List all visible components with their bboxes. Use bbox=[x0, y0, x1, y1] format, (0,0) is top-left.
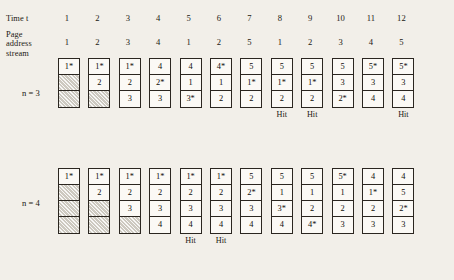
frame-stack-n-3-t1: 1* bbox=[58, 58, 80, 108]
page-request-7: 5 bbox=[239, 37, 259, 48]
frame-cell-n-4-t10-f3: 2 bbox=[333, 201, 353, 217]
frame-cell-n-3-t4-f1: 4 bbox=[150, 59, 170, 75]
frame-cell-n-3-t10-f2: 3 bbox=[333, 75, 353, 91]
time-value-12: 12 bbox=[391, 13, 411, 24]
frame-cell-n-4-t8-f1: 5 bbox=[272, 169, 292, 185]
frame-cell-n-4-t7-f1: 5 bbox=[241, 169, 261, 185]
frame-cell-n-3-t10-f1: 5 bbox=[333, 59, 353, 75]
frame-cell-n-3-t4-f2: 2* bbox=[150, 75, 170, 91]
time-value-2: 2 bbox=[87, 13, 107, 24]
frame-stack-n-4-t11: 41*23 bbox=[362, 168, 384, 234]
frame-cell-empty-n-4-t1-f2 bbox=[59, 185, 79, 201]
frame-cell-empty-n-3-t1-f3 bbox=[59, 91, 79, 107]
frame-cell-empty-n-4-t2-f4 bbox=[89, 217, 109, 233]
frame-cell-n-4-t10-f2: 1 bbox=[333, 185, 353, 201]
frame-cell-n-4-t9-f1: 5 bbox=[302, 169, 322, 185]
frame-cell-n-4-t8-f4: 4 bbox=[272, 217, 292, 233]
page-address-stream-label-line-2: address bbox=[6, 39, 32, 48]
frame-cell-n-4-t3-f3: 3 bbox=[120, 201, 140, 217]
hit-label-n-4-t5: Hit bbox=[178, 236, 204, 246]
frame-cell-n-4-t12-f2: 5 bbox=[393, 185, 413, 201]
frame-cell-n-3-t9-f2: 1* bbox=[302, 75, 322, 91]
frame-stack-n-4-t3: 1*23 bbox=[119, 168, 141, 234]
page-request-9: 2 bbox=[300, 37, 320, 48]
time-value-6: 6 bbox=[209, 13, 229, 24]
frame-stack-n-3-t5: 413* bbox=[180, 58, 202, 108]
frame-cell-n-4-t9-f4: 4* bbox=[302, 217, 322, 233]
frame-cell-n-4-t9-f2: 1 bbox=[302, 185, 322, 201]
frame-stack-n-3-t11: 5*34 bbox=[362, 58, 384, 108]
frame-cell-empty-n-3-t2-f3 bbox=[89, 91, 109, 107]
page-request-5: 1 bbox=[179, 37, 199, 48]
frame-cell-n-4-t11-f4: 3 bbox=[363, 217, 383, 233]
time-value-9: 9 bbox=[300, 13, 320, 24]
frame-cell-n-4-t1-f1: 1* bbox=[59, 169, 79, 185]
frame-cell-n-3-t11-f3: 4 bbox=[363, 91, 383, 107]
page-address-stream-label-line-1: Page bbox=[6, 30, 32, 39]
frame-cell-n-4-t11-f3: 2 bbox=[363, 201, 383, 217]
frame-cell-n-4-t9-f3: 2 bbox=[302, 201, 322, 217]
page-address-stream-label: Page address stream bbox=[6, 30, 32, 58]
frame-cell-n-3-t3-f2: 2 bbox=[120, 75, 140, 91]
frame-cell-n-3-t6-f2: 1 bbox=[211, 75, 231, 91]
frame-cell-n-4-t5-f2: 2 bbox=[181, 185, 201, 201]
frame-cell-n-3-t5-f1: 4 bbox=[181, 59, 201, 75]
time-axis-label: Time t bbox=[6, 14, 28, 23]
frame-cell-n-3-t5-f3: 3* bbox=[181, 91, 201, 107]
frame-cell-n-4-t5-f3: 3 bbox=[181, 201, 201, 217]
hit-label-n-3-t8: Hit bbox=[269, 110, 295, 120]
frame-stack-n-4-t1: 1* bbox=[58, 168, 80, 234]
frame-cell-n-4-t5-f1: 1* bbox=[181, 169, 201, 185]
frame-cell-n-3-t3-f3: 3 bbox=[120, 91, 140, 107]
time-value-8: 8 bbox=[270, 13, 290, 24]
frame-cell-n-4-t7-f3: 3 bbox=[241, 201, 261, 217]
frame-count-label-n3: n = 3 bbox=[22, 88, 40, 98]
frame-cell-n-4-t12-f4: 3 bbox=[393, 217, 413, 233]
frame-cell-n-3-t7-f1: 5 bbox=[241, 59, 261, 75]
page-request-11: 4 bbox=[361, 37, 381, 48]
hit-label-n-4-t6: Hit bbox=[208, 236, 234, 246]
frame-cell-n-4-t4-f1: 1* bbox=[150, 169, 170, 185]
page-request-8: 1 bbox=[270, 37, 290, 48]
frame-cell-n-4-t7-f2: 2* bbox=[241, 185, 261, 201]
frame-cell-n-4-t4-f4: 4 bbox=[150, 217, 170, 233]
frame-cell-n-3-t2-f1: 1* bbox=[89, 59, 109, 75]
frame-cell-n-3-t12-f2: 3 bbox=[393, 75, 413, 91]
frame-cell-n-3-t9-f3: 2 bbox=[302, 91, 322, 107]
page-request-10: 3 bbox=[331, 37, 351, 48]
frame-stack-n-4-t10: 5*123 bbox=[332, 168, 354, 234]
frame-stack-n-4-t5: 1*234 bbox=[180, 168, 202, 234]
page-request-4: 4 bbox=[148, 37, 168, 48]
frame-stack-n-4-t6: 1*234 bbox=[210, 168, 232, 234]
frame-cell-n-4-t6-f2: 2 bbox=[211, 185, 231, 201]
frame-cell-n-4-t2-f2: 2 bbox=[89, 185, 109, 201]
time-value-4: 4 bbox=[148, 13, 168, 24]
frame-stack-n-3-t2: 1*2 bbox=[88, 58, 110, 108]
frame-stack-n-3-t12: 5*34 bbox=[392, 58, 414, 108]
frame-cell-n-4-t6-f1: 1* bbox=[211, 169, 231, 185]
frame-count-label-n4: n = 4 bbox=[22, 198, 40, 208]
frame-stack-n-4-t2: 1*2 bbox=[88, 168, 110, 234]
frame-stack-n-3-t6: 4*12 bbox=[210, 58, 232, 108]
frame-cell-empty-n-4-t3-f4 bbox=[120, 217, 140, 233]
frame-cell-n-3-t7-f2: 1* bbox=[241, 75, 261, 91]
frame-cell-n-4-t7-f4: 4 bbox=[241, 217, 261, 233]
frame-cell-n-4-t3-f2: 2 bbox=[120, 185, 140, 201]
frame-cell-n-4-t6-f3: 3 bbox=[211, 201, 231, 217]
frame-cell-n-4-t3-f1: 1* bbox=[120, 169, 140, 185]
frame-cell-n-3-t12-f3: 4 bbox=[393, 91, 413, 107]
frame-cell-n-4-t5-f4: 4 bbox=[181, 217, 201, 233]
frame-stack-n-4-t8: 513*4 bbox=[271, 168, 293, 234]
frame-cell-n-4-t4-f2: 2 bbox=[150, 185, 170, 201]
frame-cell-empty-n-4-t1-f3 bbox=[59, 201, 79, 217]
time-value-11: 11 bbox=[361, 13, 381, 24]
frame-cell-empty-n-4-t2-f3 bbox=[89, 201, 109, 217]
frame-stack-n-3-t3: 1*23 bbox=[119, 58, 141, 108]
time-value-5: 5 bbox=[179, 13, 199, 24]
frame-cell-n-4-t11-f2: 1* bbox=[363, 185, 383, 201]
hit-label-n-3-t9: Hit bbox=[299, 110, 325, 120]
frame-stack-n-3-t8: 51*2 bbox=[271, 58, 293, 108]
frame-stack-n-4-t9: 5124* bbox=[301, 168, 323, 234]
frame-cell-n-3-t12-f1: 5* bbox=[393, 59, 413, 75]
frame-cell-n-3-t2-f2: 2 bbox=[89, 75, 109, 91]
